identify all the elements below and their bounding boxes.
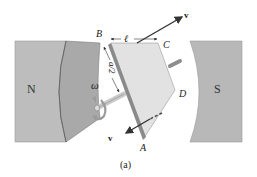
half-width-label: a/2 <box>107 62 117 74</box>
figure-caption: (a) <box>120 159 131 171</box>
corner-b-label: B <box>96 28 102 39</box>
north-pole-label: N <box>27 82 36 96</box>
velocity-top-label: v <box>184 10 189 20</box>
omega-label: ω <box>91 79 99 91</box>
generator-loop-diagram: ℓ a/2 N S B C D A ω v v (a) <box>0 0 257 177</box>
length-label: ℓ <box>124 33 128 44</box>
corner-c-label: C <box>163 39 170 50</box>
velocity-bottom-label: v <box>108 133 113 143</box>
corner-a-label: A <box>139 142 147 153</box>
corner-d-label: D <box>178 88 187 99</box>
south-pole-label: S <box>214 82 221 96</box>
current-loop-plate <box>108 43 175 140</box>
velocity-arrow-top <box>137 17 182 43</box>
